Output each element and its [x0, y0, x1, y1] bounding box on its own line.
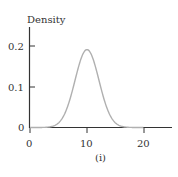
y-axis-label: Density — [27, 14, 66, 25]
x-tick-label-10: 10 — [80, 138, 93, 149]
chart-caption: (i) — [95, 152, 106, 163]
density-chart: Density 0.2 0.1 0 0 10 20 (i) — [0, 0, 178, 177]
density-curve — [30, 50, 143, 128]
x-tick-label-20: 20 — [137, 138, 150, 149]
y-tick-label-0.1: 0.1 — [8, 82, 24, 93]
y-tick-label-0: 0 — [18, 122, 24, 133]
y-tick-label-0.2: 0.2 — [8, 41, 24, 52]
x-tick-label-0: 0 — [26, 138, 32, 149]
